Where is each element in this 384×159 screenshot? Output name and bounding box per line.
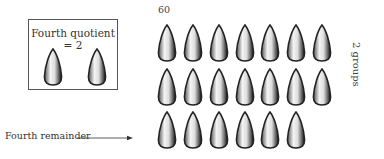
- seed-icon: [235, 24, 255, 62]
- seed-icon: [286, 68, 306, 106]
- seed-icon: [157, 68, 177, 106]
- total-label: 60: [158, 4, 170, 15]
- seed-icon: [260, 24, 280, 62]
- seed-icon: [209, 24, 229, 62]
- seed-icon: [183, 111, 203, 149]
- seed-icon: [43, 48, 63, 86]
- seed-icon: [157, 111, 177, 149]
- seed-icon: [260, 111, 280, 149]
- seed-icon: [286, 24, 306, 62]
- seed-icon: [209, 68, 229, 106]
- seed-icon: [209, 111, 229, 149]
- seed-icon: [183, 68, 203, 106]
- groups-label: 2 groups: [351, 42, 362, 87]
- seed-icon: [260, 68, 280, 106]
- seed-icon: [183, 24, 203, 62]
- seed-icon: [235, 68, 255, 106]
- seed-icon: [87, 48, 107, 86]
- seed-icon: [235, 111, 255, 149]
- seed-icon: [286, 111, 306, 149]
- arrow-right-icon: [77, 135, 133, 141]
- seed-icon: [312, 24, 332, 62]
- seed-icon: [157, 24, 177, 62]
- seed-icon: [312, 68, 332, 106]
